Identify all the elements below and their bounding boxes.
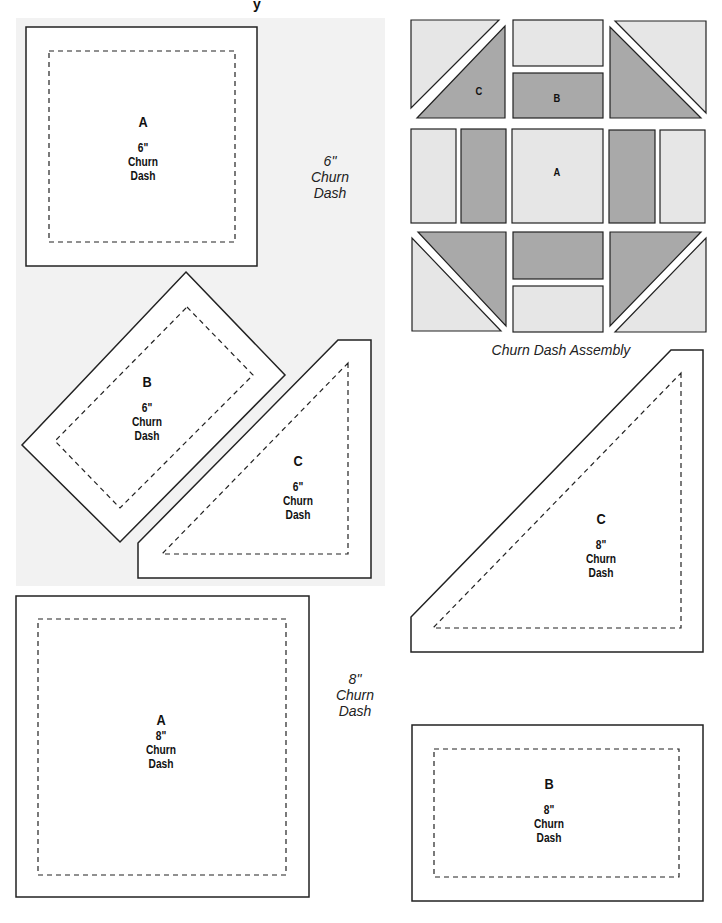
assembly-label-a: A — [554, 166, 561, 178]
assembly-label-b: B — [554, 92, 561, 104]
piece-name-line2: Dash — [586, 566, 616, 580]
piece-letter: B — [534, 775, 564, 793]
piece-name-line2: Dash — [146, 757, 176, 771]
piece-size: 8" — [586, 538, 616, 552]
side-size: 6" — [311, 153, 349, 169]
piece-letter: B — [132, 373, 162, 391]
eight-inch-side-label: 8" Churn Dash — [336, 671, 374, 719]
assembly-caption: Churn Dash Assembly — [492, 342, 631, 358]
piece-8in-c-label: C 8" Churn Dash — [583, 510, 618, 580]
piece-name-line2: Dash — [128, 169, 158, 183]
piece-8in-a-label: A 8" Churn Dash — [143, 711, 178, 771]
piece-size: 6" — [283, 480, 313, 494]
piece-size: 8" — [534, 803, 564, 817]
pattern-canvas — [0, 0, 722, 923]
piece-letter: C — [586, 510, 616, 528]
piece-letter: A — [128, 113, 158, 131]
six-inch-side-label: 6" Churn Dash — [311, 153, 349, 201]
piece-6in-c-label: C 6" Churn Dash — [280, 452, 315, 522]
side-line1: Churn — [311, 169, 349, 185]
assembly-label-c: C — [476, 85, 483, 97]
piece-6in-b-label: B 6" Churn Dash — [129, 373, 164, 443]
piece-size: 6" — [128, 141, 158, 155]
piece-name-line1: Churn — [132, 415, 162, 429]
piece-name-line1: Churn — [283, 494, 313, 508]
piece-name-line2: Dash — [283, 508, 313, 522]
title-fragment: y — [253, 0, 261, 12]
piece-name-line1: Churn — [128, 155, 158, 169]
piece-8in-b-label: B 8" Churn Dash — [531, 775, 566, 845]
piece-6in-a-label: A 6" Churn Dash — [125, 113, 160, 183]
side-line1: Churn — [336, 687, 374, 703]
piece-name-line2: Dash — [132, 429, 162, 443]
side-size: 8" — [336, 671, 374, 687]
side-line2: Dash — [336, 703, 374, 719]
piece-name-line1: Churn — [586, 552, 616, 566]
piece-name-line1: Churn — [146, 743, 176, 757]
side-line2: Dash — [311, 185, 349, 201]
piece-size: 8" — [146, 729, 176, 743]
piece-name-line2: Dash — [534, 831, 564, 845]
piece-letter: A — [146, 711, 176, 729]
piece-letter: C — [283, 452, 313, 470]
piece-name-line1: Churn — [534, 817, 564, 831]
piece-size: 6" — [132, 401, 162, 415]
piece-8in-c-shape — [411, 350, 703, 652]
